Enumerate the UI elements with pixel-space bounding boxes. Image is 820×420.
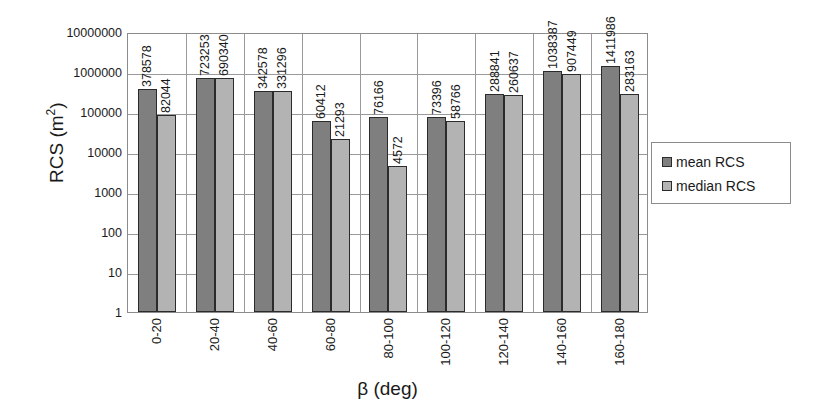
bar-median[interactable]: 690340 bbox=[215, 78, 234, 312]
bar-value-label: 1411986 bbox=[604, 16, 617, 64]
x-axis-tick-label: 40-60 bbox=[265, 318, 278, 351]
bar-group: 6041221293 bbox=[302, 34, 360, 312]
bar-group: 1411986283163 bbox=[591, 34, 649, 312]
x-axis-title: β (deg) bbox=[127, 378, 648, 400]
bar-median[interactable]: 907449 bbox=[562, 74, 581, 312]
x-axis-tick-label: 160-180 bbox=[613, 318, 626, 366]
plot-area: 3785788204472325369034034257833129660412… bbox=[127, 33, 648, 313]
legend-label: median RCS bbox=[676, 179, 755, 193]
bar-mean[interactable]: 723253 bbox=[196, 78, 215, 312]
x-axis-tick-labels: 0-2020-4040-6060-8080-100100-120120-1401… bbox=[127, 314, 648, 378]
bar-value-label: 260637 bbox=[508, 52, 521, 94]
legend-swatch-icon bbox=[662, 157, 672, 167]
legend-label: mean RCS bbox=[676, 155, 744, 169]
bar-value-label: 4572 bbox=[392, 136, 405, 164]
bar-group: 1038387907449 bbox=[533, 34, 591, 312]
bar-value-label: 690340 bbox=[218, 35, 231, 77]
x-axis-tick-label: 20-40 bbox=[207, 318, 220, 351]
y-axis-tick-label: 100000 bbox=[50, 107, 122, 120]
bar-value-label: 1038387 bbox=[546, 21, 559, 70]
bar-value-label: 723253 bbox=[199, 34, 212, 76]
bar-value-label: 378578 bbox=[141, 45, 154, 87]
bar-mean[interactable]: 73396 bbox=[427, 117, 446, 312]
bar-mean[interactable]: 1038387 bbox=[543, 71, 562, 312]
bar-value-label: 283163 bbox=[623, 50, 636, 92]
bar-mean[interactable]: 342578 bbox=[254, 91, 273, 312]
bar-mean[interactable]: 60412 bbox=[312, 121, 331, 312]
y-axis-tick-label: 10000 bbox=[50, 147, 122, 160]
bar-median[interactable]: 82044 bbox=[157, 115, 176, 312]
x-axis-tick-label: 60-80 bbox=[323, 318, 336, 351]
legend-swatch-icon bbox=[662, 181, 672, 191]
bar-median[interactable]: 331296 bbox=[273, 91, 292, 312]
y-axis-tick-labels: 100000001000000100000100001000100101 bbox=[50, 33, 122, 313]
bar-median[interactable]: 283163 bbox=[620, 94, 639, 312]
bar-value-label: 73396 bbox=[431, 81, 444, 116]
y-axis-tick-label: 1 bbox=[50, 307, 122, 320]
x-axis-tick-label: 100-120 bbox=[439, 318, 452, 366]
x-axis-tick-label: 0-20 bbox=[149, 318, 162, 344]
y-axis-tick-label: 10 bbox=[50, 267, 122, 280]
bar-mean[interactable]: 76166 bbox=[369, 117, 388, 312]
bar-value-label: 288841 bbox=[489, 50, 502, 92]
legend-item[interactable]: mean RCS bbox=[662, 150, 790, 174]
bar-median[interactable]: 58766 bbox=[446, 121, 465, 312]
y-axis-tick-label: 10000000 bbox=[50, 27, 122, 40]
x-axis-tick-label: 120-140 bbox=[497, 318, 510, 366]
bar-group: 342578331296 bbox=[244, 34, 302, 312]
bar-group: 723253690340 bbox=[186, 34, 244, 312]
rcs-bar-chart: RCS (m2) 1000000010000001000001000010001… bbox=[0, 0, 820, 420]
y-axis-tick-label: 1000000 bbox=[50, 67, 122, 80]
y-axis-tick-label: 1000 bbox=[50, 187, 122, 200]
bar-value-label: 907449 bbox=[565, 30, 578, 72]
bar-group: 7339658766 bbox=[417, 34, 475, 312]
bar-group: 761664572 bbox=[360, 34, 418, 312]
bar-mean[interactable]: 288841 bbox=[485, 94, 504, 312]
y-axis-tick-label: 100 bbox=[50, 227, 122, 240]
bar-value-label: 342578 bbox=[257, 47, 270, 89]
bar-median[interactable]: 4572 bbox=[388, 166, 407, 312]
bar-mean[interactable]: 1411986 bbox=[601, 66, 620, 312]
bar-value-label: 76166 bbox=[373, 80, 386, 115]
bar-value-label: 58766 bbox=[450, 84, 463, 119]
bar-median[interactable]: 21293 bbox=[331, 139, 350, 312]
bar-median[interactable]: 260637 bbox=[504, 95, 523, 312]
bar-group: 37857882044 bbox=[128, 34, 186, 312]
bar-value-label: 331296 bbox=[276, 47, 289, 89]
bar-value-label: 21293 bbox=[334, 102, 347, 137]
x-axis-tick-label: 140-160 bbox=[555, 318, 568, 366]
bar-value-label: 60412 bbox=[315, 84, 328, 119]
bar-group: 288841260637 bbox=[475, 34, 533, 312]
legend: mean RCSmedian RCS bbox=[651, 142, 791, 204]
x-axis-tick-label: 80-100 bbox=[381, 318, 394, 358]
legend-item[interactable]: median RCS bbox=[662, 174, 790, 198]
bar-mean[interactable]: 378578 bbox=[138, 89, 157, 312]
bar-value-label: 82044 bbox=[160, 79, 173, 114]
